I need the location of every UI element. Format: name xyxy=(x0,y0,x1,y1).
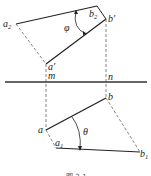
label-a1: a1 xyxy=(55,137,63,149)
label-b: b xyxy=(108,91,113,102)
label-a: a xyxy=(38,124,43,135)
dashed-b-b1 xyxy=(106,98,140,152)
theta-arc xyxy=(72,117,80,150)
line-b2-bprime xyxy=(97,6,106,19)
label-n: n xyxy=(108,71,113,82)
label-b-prime: b′ xyxy=(108,13,116,24)
label-b2: b2 xyxy=(89,8,98,20)
label-theta: θ xyxy=(83,126,88,137)
line-a2-b2 xyxy=(16,6,97,24)
phi-arc xyxy=(75,11,86,34)
line-a1-b1 xyxy=(56,148,140,152)
figure-caption: 图 3-1 xyxy=(66,173,87,176)
line-a-b xyxy=(46,98,106,130)
projection-diagram: a2 b2 b′ a′ φ m n b a a1 b1 θ 图 3-1 xyxy=(0,0,151,176)
label-m: m xyxy=(48,70,55,81)
label-b1: b1 xyxy=(140,148,148,160)
line-aprime-bprime xyxy=(46,19,106,64)
label-phi: φ xyxy=(64,22,70,33)
dashed-a2-aprime xyxy=(16,24,46,64)
label-a2: a2 xyxy=(3,18,12,30)
